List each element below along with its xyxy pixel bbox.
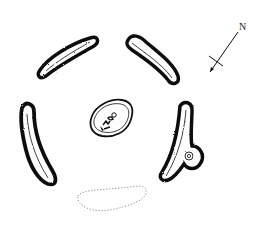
site-plan-drawing — [0, 0, 260, 231]
right-bank — [160, 103, 202, 181]
north-label: N — [239, 22, 246, 32]
left-bank — [21, 104, 55, 185]
southern-dotted-feature — [78, 186, 146, 210]
north-arrow-icon — [209, 32, 238, 72]
upper-left-bank — [38, 37, 97, 77]
upper-right-bank — [127, 36, 179, 84]
central-feature — [90, 100, 132, 137]
